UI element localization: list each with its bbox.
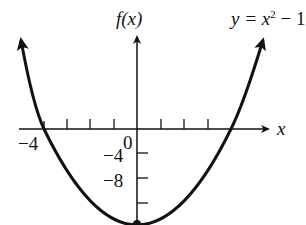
equation-constant: − 16 — [276, 8, 306, 29]
y-tick-label-neg4: −4 — [103, 146, 123, 165]
x-ticks — [44, 119, 208, 129]
parabola-right-branch — [137, 40, 263, 225]
vertex-point — [133, 220, 141, 225]
y-ticks — [137, 153, 148, 203]
origin-label: 0 — [123, 133, 133, 152]
y-axis-label-text: f(x) — [116, 8, 142, 29]
parabola-left-branch — [21, 40, 137, 225]
equation-label: y = x2 − 16 — [231, 9, 306, 28]
x-tick-label-neg4: −4 — [18, 134, 38, 153]
y-axis-label: f(x) — [116, 9, 142, 28]
x-axis-label: x — [277, 119, 285, 138]
y-tick-label-neg8: −8 — [103, 171, 123, 190]
equation-base: y = x — [231, 8, 270, 29]
graph-canvas — [0, 0, 306, 225]
